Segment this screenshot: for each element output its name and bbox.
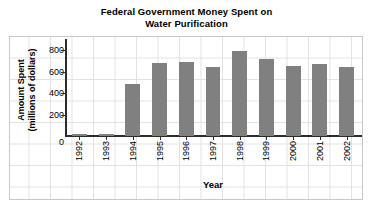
- x-tick-label-2002: 2002: [341, 141, 353, 175]
- x-tick-mark-1992: [79, 137, 80, 140]
- chart-title-line-1: Federal Government Money Spent on: [101, 6, 273, 17]
- x-tick-label-1995: 1995: [154, 141, 166, 175]
- x-tick-label-text: 2002: [341, 141, 353, 161]
- y-tick-label-0: 0: [36, 138, 64, 147]
- x-tick-label-text: 1998: [234, 141, 246, 161]
- bar-1995: [152, 63, 167, 136]
- x-tick-label-text: 1995: [154, 141, 166, 161]
- x-tick-label-text: 2001: [314, 141, 326, 161]
- y-tick-label-400: 400: [36, 89, 64, 98]
- x-tick-label-2001: 2001: [314, 141, 326, 175]
- x-tick-mark-2001: [320, 137, 321, 140]
- x-tick-mark-1994: [133, 137, 134, 140]
- x-tick-mark-1996: [186, 137, 187, 140]
- x-tick-label-text: 1999: [260, 141, 272, 161]
- bar-1996: [179, 62, 194, 136]
- y-axis-label-line-1: Amount Spent: [16, 48, 27, 131]
- x-tick-label-1999: 1999: [260, 141, 272, 175]
- x-axis-label: Year: [66, 179, 360, 190]
- y-tick-label-200: 200: [36, 110, 64, 119]
- bar-1994: [125, 84, 140, 136]
- bar-1999: [259, 59, 274, 136]
- x-tick-label-1992: 1992: [73, 141, 85, 175]
- x-tick-label-1997: 1997: [207, 141, 219, 175]
- bar-1997: [206, 67, 221, 136]
- x-tick-mark-1997: [213, 137, 214, 140]
- x-tick-label-1998: 1998: [234, 141, 246, 175]
- x-tick-label-text: 1992: [73, 141, 85, 161]
- y-axis-tick-labels: 800 600 400 200 0: [32, 0, 64, 206]
- x-tick-label-text: 1993: [100, 141, 112, 161]
- x-tick-label-1996: 1996: [180, 141, 192, 175]
- bar-2002: [339, 67, 354, 136]
- chart-figure: Federal Government Money Spent on Water …: [0, 0, 373, 206]
- bar-2001: [312, 64, 327, 136]
- x-tick-mark-2000: [293, 137, 294, 140]
- y-tick-label-800: 800: [36, 46, 64, 55]
- x-tick-mark-1993: [106, 137, 107, 140]
- x-tick-label-text: 2000: [287, 141, 299, 161]
- x-tick-mark-1999: [266, 137, 267, 140]
- x-tick-label-2000: 2000: [287, 141, 299, 175]
- x-tick-mark-1998: [240, 137, 241, 140]
- bar-1992: [72, 134, 87, 136]
- x-tick-mark-2002: [347, 137, 348, 140]
- x-tick-label-text: 1996: [180, 141, 192, 161]
- y-tick-label-600: 600: [36, 67, 64, 76]
- bar-1993: [99, 134, 114, 136]
- x-tick-label-1993: 1993: [100, 141, 112, 175]
- bar-1998: [232, 51, 247, 136]
- x-tick-mark-1995: [160, 137, 161, 140]
- x-tick-label-text: 1997: [207, 141, 219, 161]
- bar-2000: [286, 66, 301, 136]
- x-tick-label-text: 1994: [127, 141, 139, 161]
- x-tick-label-1994: 1994: [127, 141, 139, 175]
